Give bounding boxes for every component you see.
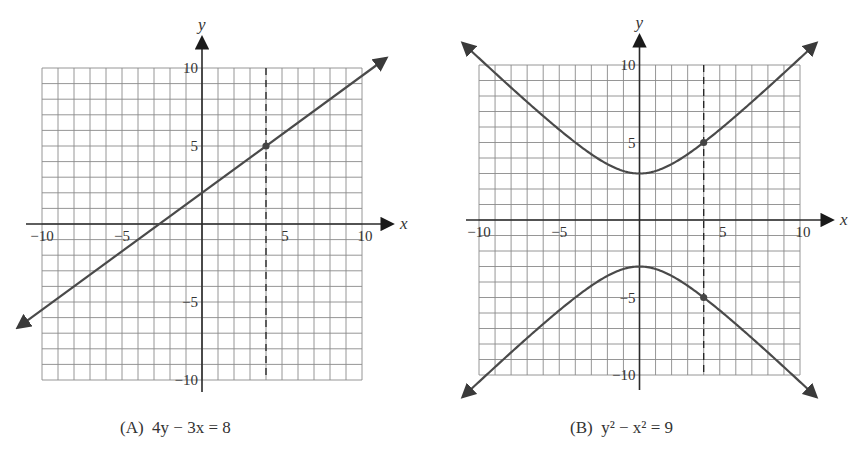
x-tick-label: 5: [281, 228, 289, 244]
y-axis-label: y: [196, 15, 206, 34]
caption-a-label: (A): [120, 418, 144, 437]
caption-b-equation: y² − x² = 9: [601, 418, 673, 437]
caption-a-equation: 4y − 3x = 8: [152, 418, 231, 437]
y-tick-label: −5: [620, 290, 636, 306]
chart-a: xy−10−5510105−5−10: [18, 15, 408, 392]
y-tick-label: −5: [182, 294, 198, 310]
x-axis-label: x: [839, 210, 848, 229]
caption-b: (B) y² − x² = 9: [570, 418, 673, 438]
x-tick-label: −5: [114, 228, 130, 244]
caption-b-label: (B): [570, 418, 593, 437]
y-tick-label: 5: [191, 138, 199, 154]
caption-a: (A) 4y − 3x = 8: [120, 418, 231, 438]
chart-b: xy−10−5510105−5−10: [463, 13, 848, 397]
y-tick-label: 10: [621, 57, 636, 73]
x-tick-label: −10: [30, 228, 53, 244]
marked-point: [700, 294, 707, 301]
graphs-figure: xy−10−5510105−5−10 xy−10−5510105−5−10: [0, 0, 864, 453]
marked-point: [262, 142, 269, 149]
x-tick-label: 10: [358, 228, 373, 244]
x-tick-label: −10: [467, 224, 490, 240]
y-tick-label: 5: [628, 135, 636, 151]
y-tick-label: −10: [175, 372, 198, 388]
x-tick-label: 10: [796, 224, 811, 240]
y-tick-label: −10: [612, 367, 635, 383]
y-tick-label: 10: [183, 60, 198, 76]
x-tick-label: −5: [551, 224, 567, 240]
x-axis-label: x: [399, 214, 408, 233]
x-tick-label: 5: [719, 224, 727, 240]
marked-point: [700, 139, 707, 146]
y-axis-label: y: [634, 13, 644, 32]
